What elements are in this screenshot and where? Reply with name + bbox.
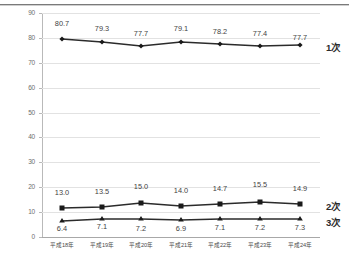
data-label-2ji-6: 14.9	[283, 184, 317, 193]
data-label-3ji-0: 6.4	[45, 224, 79, 233]
data-label-3ji-5: 7.2	[243, 223, 277, 232]
series-label-3ji: 3次	[326, 215, 341, 229]
series-1ji-markers	[59, 36, 302, 48]
data-label-2ji-2: 15.0	[124, 182, 158, 191]
data-label-2ji-4: 14.7	[203, 184, 237, 193]
data-label-3ji-6: 7.3	[283, 223, 317, 232]
data-label-3ji-1: 7.1	[85, 222, 119, 231]
x-tick-label-6: 平成24年	[273, 241, 327, 249]
data-label-3ji-3: 6.9	[164, 224, 198, 233]
data-label-3ji-2: 7.2	[124, 224, 158, 233]
data-label-2ji-5: 15.5	[243, 180, 277, 189]
series-2ji-markers	[60, 200, 303, 211]
line-chart: 90 80 70 60 50 40 30 20 10 0	[0, 0, 349, 261]
data-label-1ji-6: 77.7	[283, 33, 317, 42]
series-label-1ji: 1次	[326, 40, 341, 54]
data-label-2ji-3: 14.0	[164, 186, 198, 195]
data-label-1ji-4: 78.2	[203, 27, 237, 36]
data-label-2ji-0: 13.0	[45, 188, 79, 197]
data-label-2ji-1: 13.5	[85, 187, 119, 196]
data-label-1ji-3: 79.1	[164, 24, 198, 33]
data-label-1ji-0: 80.7	[45, 19, 79, 28]
data-label-1ji-2: 77.7	[124, 29, 158, 38]
data-label-1ji-1: 79.3	[85, 24, 119, 33]
series-label-2ji: 2次	[326, 199, 341, 213]
data-label-3ji-4: 7.1	[203, 223, 237, 232]
data-label-1ji-5: 77.4	[243, 29, 277, 38]
